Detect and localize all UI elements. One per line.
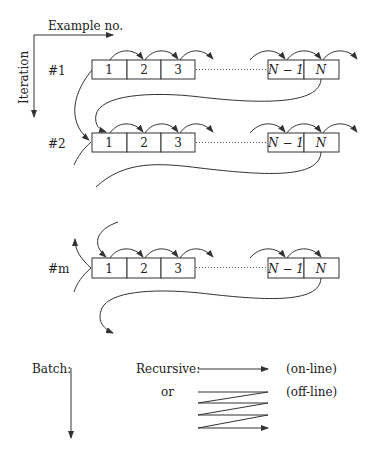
cell-label: 2 [140, 262, 148, 276]
row-m: #m 1 2 3 N − 1 N [48, 249, 339, 278]
cell-label: 2 [140, 136, 148, 150]
cell-label: N [315, 63, 327, 77]
row-2: #2 1 2 3 N − 1 N [48, 124, 357, 152]
cell-label: N − 1 [267, 63, 304, 77]
cell-label: N − 1 [267, 136, 304, 150]
row-label: #m [48, 262, 70, 276]
or-label: or [161, 385, 174, 399]
cell-label: 3 [174, 63, 182, 77]
cell-label: 3 [174, 262, 182, 276]
x-axis-label: Example no. [48, 19, 123, 33]
training-order-diagram: Example no. Iteration #1 1 2 3 N − 1 N #… [0, 0, 372, 455]
wrap-arrow [98, 222, 118, 257]
cell-label: N [315, 262, 327, 276]
y-axis-label: Iteration [17, 51, 31, 104]
cell-label: 2 [140, 63, 148, 77]
legend: Batch: Recursive: (on-line) or (off-line… [32, 362, 337, 438]
cell-label: N − 1 [267, 262, 304, 276]
cell-label: N [315, 136, 327, 150]
batch-label: Batch: [32, 362, 71, 376]
wrap-arrow [75, 70, 92, 140]
offline-label: (off-line) [286, 385, 337, 399]
recursive-label: Recursive: [136, 362, 200, 376]
wrap-arrow [75, 239, 91, 268]
wrap-curve [74, 142, 91, 165]
row-label: #1 [48, 64, 66, 78]
row-1: #1 1 2 3 N − 1 N [48, 51, 357, 79]
online-label: (on-line) [286, 362, 337, 376]
cell-label: 1 [105, 262, 113, 276]
offline-zigzag-arrow [198, 392, 268, 428]
wrap-curve [74, 268, 91, 292]
wrap-arrow [100, 278, 321, 333]
cell-label: 1 [105, 63, 113, 77]
row-label: #2 [48, 137, 66, 151]
cell-label: 3 [174, 136, 182, 150]
cell-label: 1 [105, 136, 113, 150]
wrap-curve [96, 152, 321, 187]
